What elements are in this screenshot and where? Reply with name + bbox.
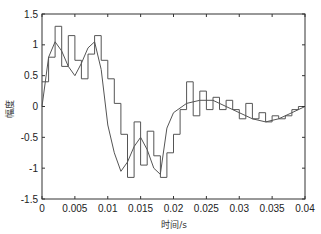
y-tick-label: 0	[32, 101, 38, 112]
y-tick-label: 1.5	[24, 9, 38, 20]
x-tick-label: 0.04	[295, 203, 315, 214]
x-tick-label: 0.03	[230, 203, 250, 214]
series-staircase	[42, 26, 305, 177]
y-tick-label: -1	[29, 163, 38, 174]
x-axis-title: 时间/s	[161, 219, 187, 230]
x-tick-label: 0.015	[128, 203, 153, 214]
chart: 00.0050.010.0150.020.0250.030.0350.04 1.…	[0, 0, 321, 234]
y-tick-label: -0.5	[21, 132, 39, 143]
x-tick-label: 0.035	[260, 203, 285, 214]
y-axis-title: 幅度	[4, 100, 15, 118]
x-tick-label: 0.01	[98, 203, 118, 214]
x-tick-label: 0.025	[194, 203, 219, 214]
plot-area	[42, 14, 305, 199]
y-tick-label: -1.5	[21, 194, 39, 205]
x-axis: 00.0050.010.0150.020.0250.030.0350.04	[39, 14, 315, 214]
y-axis: 1.510.50-0.5-1-1.5	[21, 9, 305, 205]
x-tick-label: 0.02	[164, 203, 184, 214]
y-tick-label: 1	[32, 39, 38, 50]
x-tick-label: 0.005	[62, 203, 87, 214]
y-tick-label: 0.5	[24, 70, 38, 81]
x-tick-label: 0	[39, 203, 45, 214]
plot-frame	[42, 14, 305, 199]
